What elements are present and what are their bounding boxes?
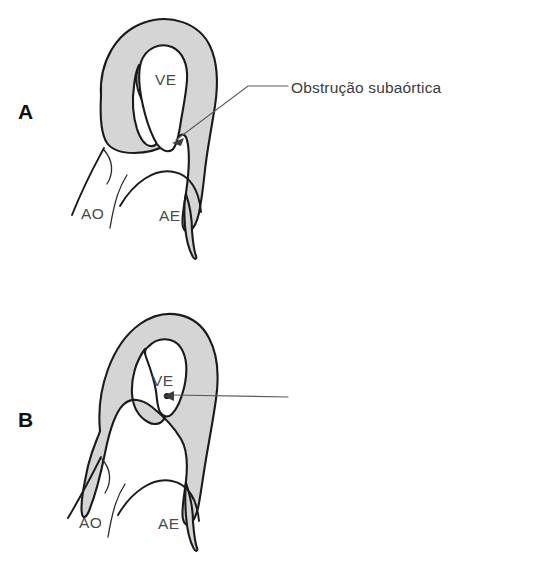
- figure-root: A AO AE VE Obstrução subaórtica: [0, 0, 542, 561]
- heart-diagram-b: AO AE VE: [0, 281, 542, 561]
- mitral-leaflet-a: [110, 175, 127, 228]
- panel-a: A AO AE VE Obstrução subaórtica: [0, 0, 542, 280]
- label-ventricle-a: VE: [155, 71, 176, 88]
- callout-label-a: Obstrução subaórtica: [291, 80, 441, 96]
- heart-diagram-a: AO AE VE: [0, 0, 542, 280]
- panel-b: B AO AE VE Obstrução medioventricular: [0, 281, 542, 561]
- label-atrium-a: AE: [159, 207, 180, 224]
- mitral-leaflet-b: [108, 484, 125, 537]
- label-aorta-a: AO: [81, 205, 104, 222]
- aortic-valve-cusp-a: [104, 150, 112, 184]
- label-aorta-b: AO: [79, 514, 102, 531]
- label-atrium-b: AE: [158, 515, 179, 532]
- label-ventricle-b: VE: [152, 372, 173, 389]
